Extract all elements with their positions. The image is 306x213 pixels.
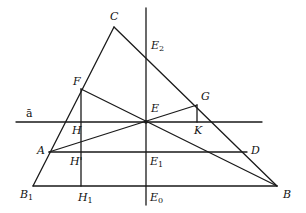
- point-e: [144, 120, 148, 124]
- label-k: K: [194, 125, 202, 136]
- label-e: E: [151, 103, 159, 114]
- label-h: H: [72, 125, 82, 136]
- label-e2: E2: [151, 40, 164, 53]
- geometry-diagram: C E2 F G E ā H K A H' E1 D B1 H1 E0 B: [0, 0, 306, 213]
- label-a-bar: ā: [26, 108, 33, 119]
- label-e1: E1: [150, 156, 163, 169]
- label-h1: H1: [78, 192, 93, 205]
- label-d: D: [251, 145, 260, 156]
- label-b: B: [283, 189, 291, 200]
- label-h-prime: H': [70, 156, 83, 167]
- label-c: C: [110, 11, 118, 22]
- label-b1: B1: [20, 189, 33, 202]
- segment-f-b: [81, 89, 277, 186]
- label-g: G: [201, 91, 210, 102]
- label-e0: E0: [150, 192, 163, 205]
- label-a: A: [37, 145, 45, 156]
- label-f: F: [73, 76, 81, 87]
- side-c-b: [114, 27, 277, 186]
